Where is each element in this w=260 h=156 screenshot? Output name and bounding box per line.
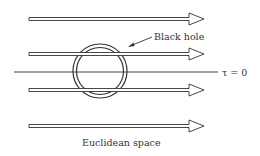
tau-zero-label: τ = 0 — [222, 67, 247, 78]
black-hole-pointer-arrow — [128, 37, 152, 47]
euclidean-space-label: Euclidean space — [82, 137, 161, 148]
arrow-3 — [29, 84, 204, 96]
arrow-1 — [29, 13, 204, 25]
arrow-4 — [29, 120, 204, 132]
black-hole-label: Black hole — [154, 31, 205, 42]
euclidean-black-hole-diagram: Black hole τ = 0 Euclidean space — [0, 0, 260, 156]
